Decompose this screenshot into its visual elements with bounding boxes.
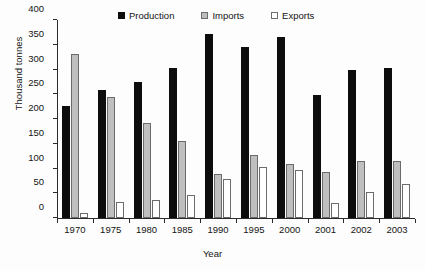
x-axis-tick xyxy=(343,219,344,223)
bar-imports xyxy=(250,155,258,218)
legend-swatch-production-icon xyxy=(118,12,125,19)
x-axis-tick xyxy=(236,219,237,223)
bar-production xyxy=(384,68,392,218)
bar-group xyxy=(169,20,195,218)
y-axis-tick-label: 150 xyxy=(14,127,44,138)
bar-imports xyxy=(143,123,151,218)
bar-exports xyxy=(331,203,339,218)
bar-exports xyxy=(152,200,160,218)
y-axis-tick xyxy=(53,93,57,94)
y-axis-tick-label: 250 xyxy=(14,77,44,88)
x-axis-tick xyxy=(272,219,273,223)
bar-exports xyxy=(259,167,267,218)
bar-imports xyxy=(286,164,294,218)
bar-exports xyxy=(80,213,88,218)
plot-area: 050100150200250300350400 xyxy=(57,20,415,218)
x-axis-tick-label: 1980 xyxy=(127,224,167,235)
y-axis-tick xyxy=(53,168,57,169)
bar-group xyxy=(205,20,231,218)
x-axis-tick-label: 2002 xyxy=(341,224,381,235)
bar-imports xyxy=(322,172,330,218)
bar-group xyxy=(313,20,339,218)
x-axis-tick-label: 1990 xyxy=(198,224,238,235)
bar-production xyxy=(348,70,356,218)
x-axis-tick xyxy=(379,219,380,223)
bar-imports xyxy=(71,54,79,218)
x-axis-tick-label: 1985 xyxy=(162,224,202,235)
x-axis-tick-label: 1970 xyxy=(55,224,95,235)
bar-group xyxy=(241,20,267,218)
bar-imports xyxy=(214,174,222,218)
x-axis-tick xyxy=(93,219,94,223)
x-axis-tick xyxy=(164,219,165,223)
bar-group xyxy=(62,20,88,218)
bar-production xyxy=(134,82,142,218)
y-axis-tick xyxy=(53,118,57,119)
x-axis-tick xyxy=(415,219,416,223)
bar-group xyxy=(98,20,124,218)
x-axis-tick-label: 2003 xyxy=(377,224,417,235)
x-axis-tick xyxy=(308,219,309,223)
y-axis-line xyxy=(57,20,58,219)
legend-swatch-exports-icon xyxy=(271,12,278,19)
bar-exports xyxy=(116,202,124,218)
y-axis-tick-label: 50 xyxy=(14,176,44,187)
y-axis-tick xyxy=(53,192,57,193)
y-axis-tick xyxy=(53,19,57,20)
x-axis-tick xyxy=(57,219,58,223)
y-axis-tick-label: 300 xyxy=(14,53,44,64)
bar-exports xyxy=(402,184,410,218)
x-axis-title: Year xyxy=(0,248,425,259)
y-axis-tick-label: 200 xyxy=(14,102,44,113)
bar-imports xyxy=(393,161,401,218)
y-axis-tick-label: 0 xyxy=(14,201,44,212)
bar-group xyxy=(134,20,160,218)
bar-production xyxy=(277,37,285,218)
x-axis-tick xyxy=(200,219,201,223)
x-axis-tick xyxy=(129,219,130,223)
bar-group xyxy=(277,20,303,218)
bar-exports xyxy=(295,170,303,219)
y-axis-tick xyxy=(53,44,57,45)
bar-imports xyxy=(178,141,186,218)
bar-group xyxy=(348,20,374,218)
bar-group xyxy=(384,20,410,218)
y-axis-tick-label: 100 xyxy=(14,152,44,163)
x-axis-tick-label: 2001 xyxy=(306,224,346,235)
bar-production xyxy=(62,106,70,218)
x-axis-tick-label: 1995 xyxy=(234,224,274,235)
x-axis-tick-label: 1975 xyxy=(91,224,131,235)
bar-exports xyxy=(187,195,195,218)
bar-production xyxy=(169,68,177,218)
y-axis-tick-label: 350 xyxy=(14,28,44,39)
y-axis-tick xyxy=(53,217,57,218)
bar-production xyxy=(313,95,321,218)
x-axis-tick-label: 2000 xyxy=(270,224,310,235)
legend-swatch-imports-icon xyxy=(201,12,208,19)
bar-chart-figure: Production Imports Exports Thousand tonn… xyxy=(0,0,425,271)
y-axis-tick xyxy=(53,143,57,144)
bar-imports xyxy=(107,97,115,218)
bar-exports xyxy=(223,179,231,218)
bar-production xyxy=(205,34,213,218)
bar-production xyxy=(241,47,249,218)
y-axis-tick xyxy=(53,69,57,70)
y-axis-tick-label: 400 xyxy=(14,3,44,14)
bar-production xyxy=(98,90,106,218)
bar-exports xyxy=(366,192,374,218)
bar-imports xyxy=(357,161,365,218)
